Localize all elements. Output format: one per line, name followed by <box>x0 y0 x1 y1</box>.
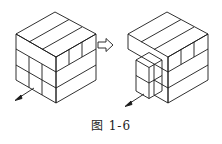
right-cube <box>125 12 208 107</box>
hollow-right-arrow-icon <box>98 39 113 52</box>
figure-caption: 图 1-6 <box>0 116 222 133</box>
left-cube <box>15 12 96 103</box>
